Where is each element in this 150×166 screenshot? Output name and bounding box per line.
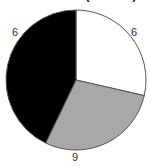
slice-label-right: 6 (131, 27, 137, 38)
pie-chart-canvas (0, 0, 150, 166)
slice-label-left: 6 (12, 27, 18, 38)
pie-slices-group (6, 10, 146, 150)
pie-chart-figure: in this form (100.0%) 6 6 9 (0, 0, 150, 166)
slice-label-bottom: 9 (0, 152, 150, 163)
